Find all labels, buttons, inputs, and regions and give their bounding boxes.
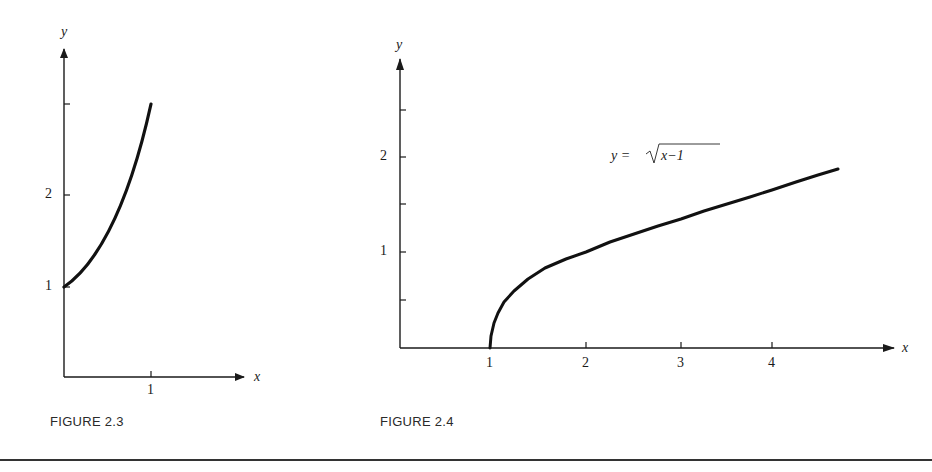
curve-sqrt xyxy=(490,169,838,348)
x-tick-label-4: 4 xyxy=(768,355,775,371)
figure-2-3-caption: FIGURE 2.3 xyxy=(50,414,124,429)
y-axis-label: y xyxy=(396,37,402,53)
x-tick-label-2: 2 xyxy=(582,355,589,371)
x-tick-label-3: 3 xyxy=(677,355,684,371)
y-tick-label-2: 2 xyxy=(380,148,387,164)
figure-2-4-caption: FIGURE 2.4 xyxy=(380,414,454,429)
curve-annotation-lhs: y = xyxy=(611,148,634,164)
curve-annotation-radicand: x−1 xyxy=(661,148,684,164)
x-tick-label-1: 1 xyxy=(486,355,493,371)
x-axis-label: x xyxy=(902,340,908,356)
page-rule-divider xyxy=(0,459,932,461)
figure-2-4-plot xyxy=(0,0,932,400)
y-tick-label-1: 1 xyxy=(380,243,387,259)
